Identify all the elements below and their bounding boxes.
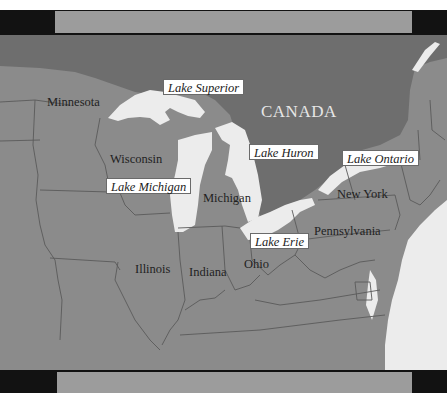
state-label-ohio: Ohio xyxy=(244,257,269,272)
state-label-minnesota: Minnesota xyxy=(47,95,100,110)
top-frame-panel xyxy=(55,11,412,33)
state-label-illinois: Illinois xyxy=(135,262,170,277)
lake-label-michigan: Lake Michigan xyxy=(106,178,191,194)
lake-label-ontario: Lake Ontario xyxy=(342,150,419,166)
state-label-new-york: New York xyxy=(337,187,388,202)
state-label-wisconsin: Wisconsin xyxy=(110,152,162,167)
bottom-frame-panel xyxy=(57,372,412,393)
bottom-frame-bar xyxy=(0,370,447,393)
chesapeake-bay xyxy=(366,270,378,320)
great-lakes-map: CANADA Minnesota Wisconsin Michigan Illi… xyxy=(0,35,447,370)
lake-label-huron: Lake Huron xyxy=(249,144,319,160)
lake-label-erie: Lake Erie xyxy=(250,233,309,249)
state-label-indiana: Indiana xyxy=(189,265,226,280)
state-label-michigan: Michigan xyxy=(203,191,251,206)
top-frame-bar xyxy=(0,10,447,35)
state-label-pennsylvania: Pennsylvania xyxy=(314,224,381,239)
lake-label-superior: Lake Superior xyxy=(163,79,244,95)
atlantic-ocean xyxy=(385,200,447,370)
country-label-canada: CANADA xyxy=(261,102,337,122)
